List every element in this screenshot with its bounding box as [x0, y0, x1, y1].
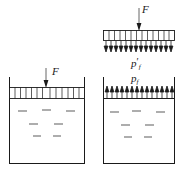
force-arrow-top	[137, 8, 142, 31]
piston-bar-top	[104, 31, 175, 41]
force-arrow-left	[44, 68, 49, 88]
pressure-label-fluid-subscript: f	[137, 78, 139, 86]
fluid-marks-left	[18, 110, 75, 136]
reaction-pressure-arrows	[104, 41, 173, 52]
container-with-piston	[10, 68, 85, 164]
pressure-label-fluid: pf	[131, 73, 138, 86]
pressure-label-piston: p′f	[131, 57, 141, 71]
fluid-pressure-arrows	[105, 86, 174, 98]
physics-figure	[0, 0, 180, 172]
pressure-label-piston-subscript: f	[139, 63, 141, 71]
force-label-top: F	[142, 4, 149, 15]
piston-bar-left	[10, 88, 85, 99]
force-label-left: F	[52, 66, 59, 77]
container-with-fluid-pressure	[104, 77, 175, 164]
piston-free-body-diagram	[104, 8, 175, 52]
fluid-marks-right	[110, 111, 165, 137]
